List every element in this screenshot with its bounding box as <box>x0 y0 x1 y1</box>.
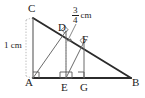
vertex-label-E: E <box>61 82 68 93</box>
segment-DF-measure-label: 3 4 cm <box>72 6 92 25</box>
vertex-label-B: B <box>132 77 139 88</box>
fraction-denominator: 4 <box>72 16 79 25</box>
fraction-stack: 3 4 <box>72 6 79 25</box>
vertex-label-C: C <box>28 3 35 14</box>
fraction-leader-line <box>68 24 77 41</box>
fraction-numerator: 3 <box>72 6 79 15</box>
height-measure-label: 1 cm <box>4 41 22 50</box>
vertex-label-G: G <box>80 82 88 93</box>
fraction-unit: cm <box>81 11 92 20</box>
segment-EF <box>66 42 84 78</box>
vertex-label-F: F <box>82 34 88 45</box>
vertex-label-A: A <box>25 77 33 88</box>
segment-AD <box>33 31 66 78</box>
side-CB-hypotenuse <box>33 18 131 78</box>
geometry-figure: C D F A E G B 1 cm 3 4 cm <box>0 0 145 98</box>
vertex-label-D: D <box>58 22 66 33</box>
